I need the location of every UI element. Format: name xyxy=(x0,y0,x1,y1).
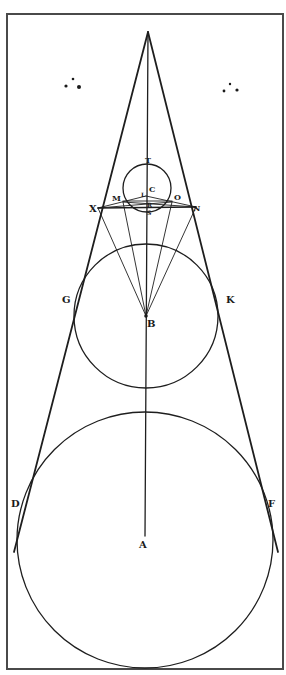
left-tangent-line xyxy=(14,32,148,552)
label-f: F xyxy=(268,498,275,509)
fan-line-b-n xyxy=(146,207,196,316)
fan-line-b-o xyxy=(146,202,172,316)
label-t: T xyxy=(145,155,151,165)
label-o: O xyxy=(174,192,181,202)
label-b: B xyxy=(147,318,155,329)
diagram-canvas: T C L R S M O X N G K B D F A xyxy=(0,0,286,675)
ornament-right xyxy=(223,83,239,93)
label-g: G xyxy=(62,294,71,305)
right-tangent-line xyxy=(148,32,278,552)
ornament-left xyxy=(64,78,81,89)
label-m: M xyxy=(112,193,121,203)
fan-line-b-m xyxy=(123,202,146,316)
label-n: N xyxy=(193,203,200,213)
label-d: D xyxy=(11,498,20,509)
central-axis xyxy=(145,32,148,536)
label-c: C xyxy=(149,184,155,194)
label-x: X xyxy=(89,203,97,214)
label-s: S xyxy=(147,209,151,216)
diagram-frame xyxy=(7,14,283,669)
label-a: A xyxy=(138,539,147,550)
label-l: L xyxy=(141,191,146,198)
label-k: K xyxy=(226,294,235,305)
fan-line-b-x xyxy=(98,208,146,316)
